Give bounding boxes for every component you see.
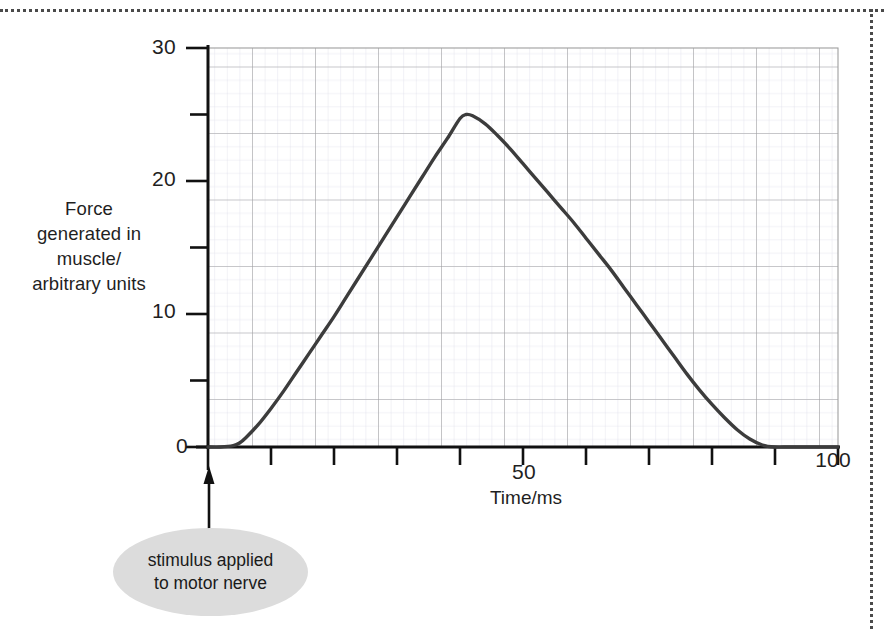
y-tick-label-30: 30 (152, 35, 176, 59)
y-axis-caption-line-1: Force (18, 196, 160, 221)
y-tick-label-20: 20 (152, 167, 176, 191)
stimulus-callout: stimulus applied to motor nerve (113, 528, 308, 616)
force-time-chart (0, 0, 884, 629)
y-axis-caption: Force generated in muscle/ arbitrary uni… (18, 196, 160, 296)
y-tick-label-10: 10 (152, 299, 176, 323)
plot-grid (208, 48, 838, 447)
stimulus-arrow (204, 466, 215, 533)
muscle-force-figure: Force generated in muscle/ arbitrary uni… (0, 0, 884, 629)
y-axis (186, 45, 208, 449)
x-tick-label-50: 50 (500, 460, 548, 484)
y-axis-caption-line-3: muscle/ (18, 246, 160, 271)
y-tick-label-0: 0 (176, 434, 188, 458)
stimulus-callout-line-2: to motor nerve (154, 572, 267, 595)
y-axis-caption-line-2: generated in (18, 221, 160, 246)
x-axis-caption: Time/ms (463, 487, 589, 509)
x-tick-label-100: 100 (806, 448, 860, 472)
stimulus-callout-line-1: stimulus applied (148, 549, 273, 572)
y-axis-caption-line-4: arbitrary units (18, 271, 160, 296)
